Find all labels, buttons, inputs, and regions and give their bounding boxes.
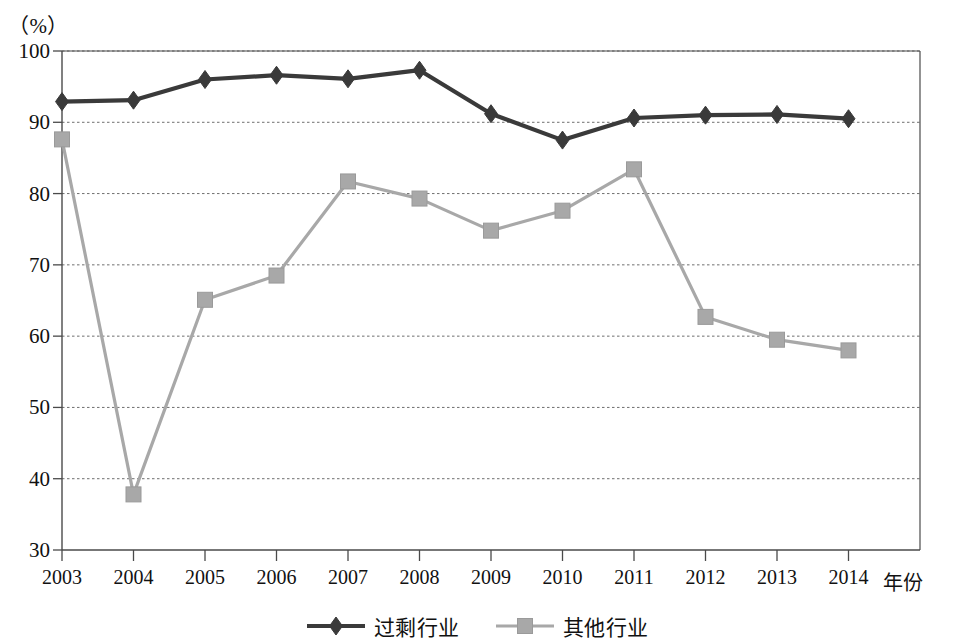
series-line <box>62 70 849 140</box>
x-tick-label: 2011 <box>614 566 653 589</box>
y-tick-label: 80 <box>4 181 50 206</box>
legend-entry-overcapacity[interactable]: 过剩行业 <box>305 611 460 641</box>
y-axis-unit-label: （%） <box>8 9 69 39</box>
diamond-marker-icon <box>771 105 784 123</box>
diamond-marker-icon <box>127 91 140 109</box>
square-marker-icon <box>55 132 70 147</box>
diamond-marker-icon <box>485 105 498 123</box>
square-marker-icon <box>770 332 785 347</box>
x-tick-label: 2005 <box>185 566 225 589</box>
legend-label: 其他行业 <box>563 611 649 641</box>
square-marker-icon <box>341 174 356 189</box>
square-marker-icon <box>412 191 427 206</box>
square-marker-icon <box>494 615 556 637</box>
diamond-marker-icon <box>699 106 712 124</box>
x-tick-label: 2010 <box>543 566 583 589</box>
x-tick-label: 2014 <box>829 566 869 589</box>
square-marker-icon <box>841 343 856 358</box>
square-marker-icon <box>126 487 141 502</box>
x-tick-label: 2006 <box>257 566 297 589</box>
gridlines <box>62 51 920 550</box>
diamond-marker-icon <box>556 131 569 149</box>
y-tick-label: 100 <box>4 39 50 64</box>
series-other <box>55 132 857 502</box>
square-marker-icon <box>627 162 642 177</box>
diamond-marker-icon <box>628 109 641 127</box>
x-tick-label: 2013 <box>757 566 797 589</box>
square-marker-icon <box>698 309 713 324</box>
series-layer <box>55 61 857 502</box>
x-axis-title: 年份 <box>883 567 923 596</box>
y-tick-label: 50 <box>4 395 50 420</box>
x-tick-label: 2004 <box>114 566 154 589</box>
diamond-marker-icon <box>342 70 355 88</box>
square-marker-icon <box>484 223 499 238</box>
square-marker-icon <box>198 292 213 307</box>
diamond-marker-icon <box>413 61 426 79</box>
y-tick-label: 90 <box>4 110 50 135</box>
plot-area <box>0 0 953 643</box>
x-tick-label: 2012 <box>686 566 726 589</box>
series-line <box>62 139 849 494</box>
legend-label: 过剩行业 <box>374 611 460 641</box>
square-marker-icon <box>269 268 284 283</box>
axis-lines <box>53 51 920 550</box>
x-tick-label: 2008 <box>400 566 440 589</box>
x-tick-label: 2009 <box>471 566 511 589</box>
diamond-marker-icon <box>842 110 855 128</box>
chart-legend: 过剩行业其他行业 <box>0 611 953 641</box>
y-tick-label: 70 <box>4 252 50 277</box>
y-tick-label: 40 <box>4 466 50 491</box>
chart-container: （%） 10090807060504030 200320042005200620… <box>0 0 953 643</box>
x-tick-label: 2003 <box>42 566 82 589</box>
diamond-marker-icon <box>56 93 69 111</box>
y-tick-label: 30 <box>4 538 50 563</box>
x-axis-ticks <box>62 550 849 561</box>
square-marker-icon <box>555 203 570 218</box>
y-tick-label: 60 <box>4 324 50 349</box>
series-overcapacity <box>56 61 855 149</box>
x-tick-label: 2007 <box>328 566 368 589</box>
diamond-marker-icon <box>199 71 212 89</box>
legend-entry-other[interactable]: 其他行业 <box>494 611 649 641</box>
diamond-marker-icon <box>305 615 367 637</box>
diamond-marker-icon <box>270 66 283 84</box>
